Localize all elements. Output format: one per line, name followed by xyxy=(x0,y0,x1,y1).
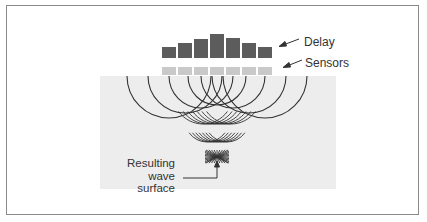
delay-bars xyxy=(162,34,272,58)
sensor xyxy=(226,67,240,75)
sensor xyxy=(258,67,272,75)
wave-arc xyxy=(223,76,307,118)
delay-label: Delay xyxy=(304,36,335,48)
delay-arrow xyxy=(279,39,299,47)
delay-bar xyxy=(258,47,272,58)
wave-arc xyxy=(188,76,246,105)
sensors-label: Sensors xyxy=(305,57,349,69)
delay-bar xyxy=(178,43,192,58)
wave-arc xyxy=(127,76,211,118)
sensor xyxy=(178,67,192,75)
sensor xyxy=(194,67,208,75)
delay-bar xyxy=(194,39,208,58)
delay-bar xyxy=(242,43,256,58)
wavefront-fans xyxy=(179,111,256,163)
result-arrow xyxy=(183,161,220,178)
wave-arcs xyxy=(127,76,307,118)
resulting-wave-surface-label: Resulting wave surface xyxy=(100,157,175,195)
delay-bar xyxy=(162,47,176,58)
delay-bar xyxy=(210,34,224,58)
sensor-array xyxy=(162,67,272,75)
delay-bar xyxy=(226,38,240,58)
sensor xyxy=(162,67,176,75)
sensor xyxy=(210,67,224,75)
sensor xyxy=(242,67,256,75)
wavefront-segment xyxy=(193,111,242,124)
sensors-arrow xyxy=(283,60,302,68)
beamforming-diagram xyxy=(0,0,427,222)
